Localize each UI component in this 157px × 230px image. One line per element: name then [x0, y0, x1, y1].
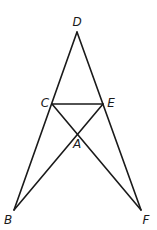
segments-group [14, 32, 141, 210]
segment-db [14, 32, 77, 210]
geometry-diagram: DCEABF [0, 0, 157, 230]
point-label-d: D [72, 15, 81, 29]
segment-cf [52, 104, 141, 210]
point-label-a: A [72, 137, 81, 151]
segment-df [77, 32, 141, 210]
point-label-e: E [107, 96, 115, 110]
point-label-c: C [41, 96, 50, 110]
point-label-f: F [143, 213, 151, 227]
point-label-b: B [4, 213, 12, 227]
segment-eb [14, 104, 103, 210]
